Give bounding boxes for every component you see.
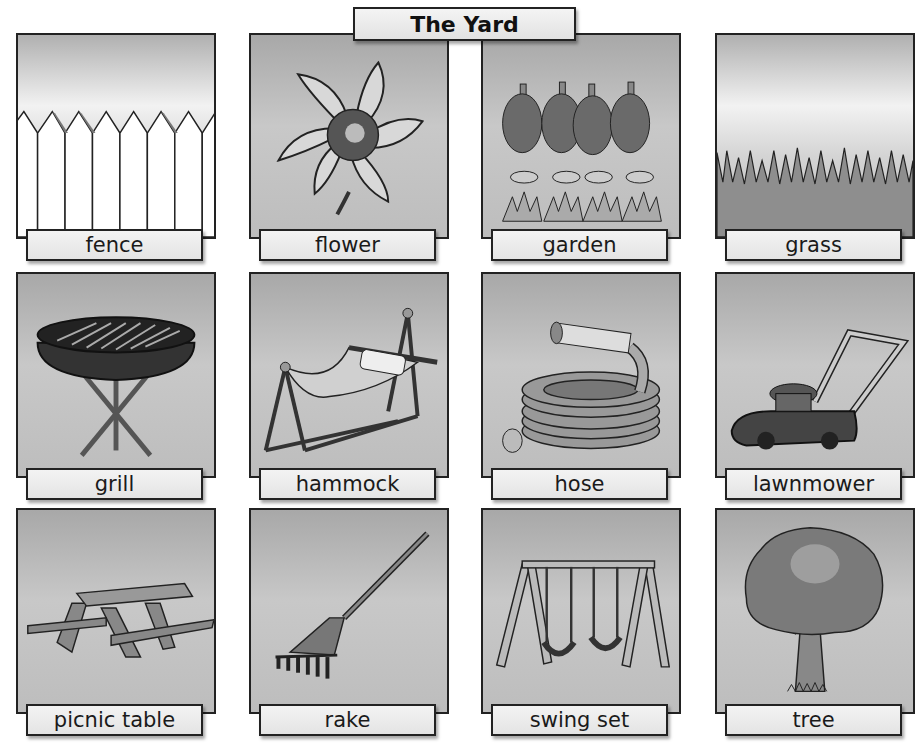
- lawnmower-icon: [715, 272, 915, 478]
- label-swing-set: swing set: [491, 704, 668, 736]
- tree-icon: [715, 508, 915, 714]
- card-fence: fence: [16, 33, 216, 265]
- page-title: The Yard: [353, 7, 576, 41]
- grill-icon: [16, 272, 216, 478]
- rake-icon: [249, 508, 449, 714]
- card-hose: hose: [481, 272, 681, 504]
- card-rake: rake: [249, 508, 449, 740]
- card-lawnmower: lawnmower: [715, 272, 915, 504]
- label-fence: fence: [26, 229, 203, 261]
- label-tree: tree: [725, 704, 902, 736]
- hammock-icon: [249, 272, 449, 478]
- card-flower: flower: [249, 33, 449, 265]
- fence-icon: [16, 33, 216, 239]
- label-grass: grass: [725, 229, 902, 261]
- garden-icon: [481, 33, 681, 239]
- label-flower: flower: [259, 229, 436, 261]
- grass-icon: [715, 33, 915, 239]
- card-grill: grill: [16, 272, 216, 504]
- card-hammock: hammock: [249, 272, 449, 504]
- label-hammock: hammock: [259, 468, 436, 500]
- card-grass: grass: [715, 33, 915, 265]
- flower-icon: [249, 33, 449, 239]
- label-garden: garden: [491, 229, 668, 261]
- label-picnic-table: picnic table: [26, 704, 203, 736]
- label-hose: hose: [491, 468, 668, 500]
- card-tree: tree: [715, 508, 915, 740]
- label-grill: grill: [26, 468, 203, 500]
- card-picnic-table: picnic table: [16, 508, 216, 740]
- label-rake: rake: [259, 704, 436, 736]
- picnic-table-icon: [16, 508, 216, 714]
- card-swing-set: swing set: [481, 508, 681, 740]
- label-lawnmower: lawnmower: [725, 468, 902, 500]
- card-garden: garden: [481, 33, 681, 265]
- swing-set-icon: [481, 508, 681, 714]
- hose-icon: [481, 272, 681, 478]
